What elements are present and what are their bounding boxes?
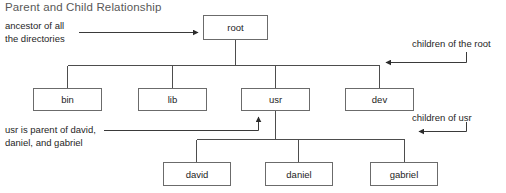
node-usr[interactable]: usr xyxy=(241,88,310,111)
annotation-children-of-usr: children of usr xyxy=(412,112,472,125)
usr-parent-arrow xyxy=(104,117,259,131)
node-david[interactable]: david xyxy=(163,162,231,186)
annotation-children-of-root: children of the root xyxy=(412,38,491,51)
annotation-ancestor-line2: the directories xyxy=(5,33,65,46)
page-title: Parent and Child Relationship xyxy=(5,1,162,13)
annotation-usr-parent-line1: usr is parent of david, xyxy=(5,124,96,137)
node-lib[interactable]: lib xyxy=(138,88,207,111)
node-dev[interactable]: dev xyxy=(345,88,414,111)
node-root[interactable]: root xyxy=(203,15,268,40)
node-gabriel[interactable]: gabriel xyxy=(370,162,438,186)
node-daniel[interactable]: daniel xyxy=(265,162,333,186)
annotation-usr-parent-line2: daniel, and gabriel xyxy=(5,137,83,150)
diagram-canvas: Parent and Child Relationship root bin l… xyxy=(0,0,506,193)
annotation-ancestor-line1: ancestor of all xyxy=(5,20,64,33)
children-of-root-arrow xyxy=(386,52,467,63)
node-bin[interactable]: bin xyxy=(33,88,102,111)
